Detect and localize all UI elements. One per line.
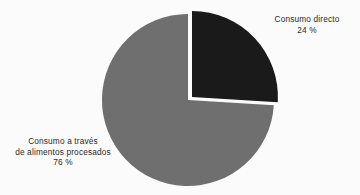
slice-label-consumo-procesados: Consumo a través de alimentos procesados… [4,136,122,168]
slice-label-consumo-directo: Consumo directo 24 % [261,14,353,35]
slice-label-consumo-procesados-name-line2: de alimentos procesados [4,147,122,158]
slice-label-consumo-procesados-value: 76 % [4,157,122,168]
slice-label-consumo-directo-name: Consumo directo [261,14,353,25]
slice-label-consumo-procesados-name-line1: Consumo a través [4,136,122,147]
pie-chart-figure: Consumo directo 24 % Consumo a través de… [0,0,360,195]
slice-label-consumo-directo-value: 24 % [261,25,353,36]
